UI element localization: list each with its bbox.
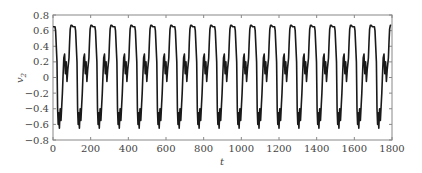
x-axis-label: t <box>220 156 225 167</box>
x-tick-label: 200 <box>81 143 100 154</box>
series-line-v2 <box>53 25 391 128</box>
y-tick-label: 0 <box>43 72 49 83</box>
y-tick-label: −0.4 <box>25 103 49 114</box>
x-tick-label: 400 <box>119 143 138 154</box>
y-tick-label: 0.6 <box>33 25 49 36</box>
x-tick-label: 0 <box>50 143 56 154</box>
x-tick-label: 1000 <box>229 143 254 154</box>
y-tick-label: −0.6 <box>25 119 49 130</box>
y-tick-label: 0.2 <box>33 56 49 67</box>
x-tick-label: 600 <box>156 143 175 154</box>
x-tick-label: 1200 <box>266 143 291 154</box>
y-tick-label: −0.2 <box>25 88 49 99</box>
x-tick-label: 1800 <box>379 143 404 154</box>
y-tick-label: −0.8 <box>25 135 49 146</box>
x-tick-label: 800 <box>194 143 213 154</box>
line-chart: 0.80.60.40.20−0.2−0.4−0.6−0.8 0200400600… <box>0 0 422 173</box>
y-axis-label: v2 <box>14 72 28 83</box>
x-tick-label: 1400 <box>304 143 329 154</box>
x-tick-label: 1600 <box>342 143 367 154</box>
y-tick-label: 0.8 <box>33 10 49 21</box>
y-tick-label: 0.4 <box>33 41 49 52</box>
